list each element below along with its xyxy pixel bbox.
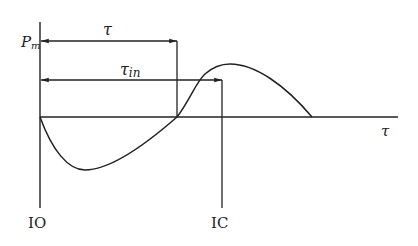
y-axis-label: Pm (20, 33, 41, 51)
ic-label: IC (211, 214, 228, 232)
time-axis-label: τ (381, 122, 390, 140)
tau-label: τ (103, 20, 113, 39)
io-label: IO (28, 214, 46, 232)
pressure-curve-negative-lobe (40, 117, 177, 170)
pressure-timing-diagram: Pm τ τin τ IO IC (0, 0, 418, 246)
pressure-curve-positive-lobe (177, 64, 312, 117)
tau-in-label: τin (120, 60, 140, 80)
